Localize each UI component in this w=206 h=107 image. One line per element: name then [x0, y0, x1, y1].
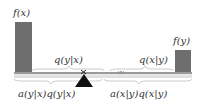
label-flow-right: a(x|y)q(x|y) — [110, 89, 167, 99]
bar-fx — [15, 22, 32, 72]
brace-q-y-given-x — [32, 66, 104, 71]
brace-q-x-given-y — [110, 66, 174, 71]
beam — [14, 72, 192, 74]
detailed-balance-diagram: f(x) f(y) q(y|x) q(x|y) a(y|x)q(y|x) a(x… — [0, 0, 206, 107]
bar-fy — [175, 50, 191, 72]
brace-flow-right — [104, 79, 192, 84]
fulcrum-icon — [75, 74, 93, 87]
label-flow-left: a(y|x)q(y|x) — [18, 89, 75, 99]
label-q-x-given-y: q(x|y) — [139, 55, 168, 65]
label-fx: f(x) — [13, 8, 30, 18]
label-fy: f(y) — [173, 36, 190, 46]
label-q-y-given-x: q(y|x) — [54, 55, 83, 65]
